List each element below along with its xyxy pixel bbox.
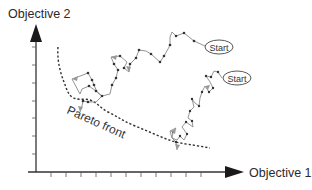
start-marker-2: Start — [223, 71, 251, 85]
trajectory-1 — [72, 32, 205, 112]
svg-text:Start: Start — [227, 74, 247, 84]
svg-text:Start: Start — [209, 43, 229, 53]
y-axis-label: Objective 2 — [8, 7, 71, 21]
trajectory-2 — [170, 71, 222, 150]
trajectory-1-nodes — [82, 32, 196, 104]
trajectory-1-arrows — [72, 55, 131, 112]
start-marker-1: Start — [205, 40, 233, 54]
pareto-front-label: Pareto front — [65, 103, 129, 142]
trajectory-2-arrows — [170, 85, 210, 150]
x-axis — [28, 166, 244, 178]
x-axis-arrowhead-icon — [225, 166, 244, 178]
y-axis-arrowhead-icon — [30, 24, 42, 42]
trajectory-2-nodes — [172, 71, 219, 143]
x-axis-label: Objective 1 — [249, 166, 312, 180]
pareto-diagram: Objective 2 Objective 1 Pareto front — [0, 0, 312, 190]
y-axis — [30, 24, 42, 172]
x-axis-ticks — [51, 172, 201, 177]
